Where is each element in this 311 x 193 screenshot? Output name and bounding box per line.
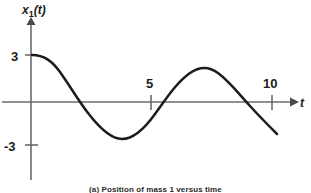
position-curve — [32, 55, 277, 139]
x-tick-label-10: 10 — [263, 76, 277, 91]
x-axis-arrowhead — [290, 98, 299, 107]
x-tick-label-5: 5 — [146, 76, 153, 91]
y-axis-label-argument: (t) — [34, 3, 46, 17]
y-tick-label-3: 3 — [11, 49, 18, 64]
x-axis-label: t — [300, 96, 305, 110]
y-axis-label: x1(t) — [21, 3, 46, 19]
y-tick-label-minus3: -3 — [4, 139, 16, 154]
figure-caption: (a) Position of mass 1 versus time — [0, 184, 311, 193]
position-vs-time-figure: x1(t) t 3 -3 5 10 (a) Position of mass 1… — [0, 0, 311, 193]
plot-canvas: x1(t) t 3 -3 5 10 — [0, 0, 311, 193]
